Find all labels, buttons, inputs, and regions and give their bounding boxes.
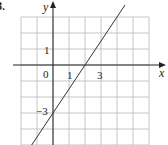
origin-label: 0 xyxy=(43,69,49,80)
y-tick-label-neg3: −3 xyxy=(36,106,48,117)
y-tick-label-1: 1 xyxy=(44,45,50,56)
x-tick-label-1: 1 xyxy=(67,70,73,81)
x-tick-label-3: 3 xyxy=(97,70,103,81)
y-axis-label: y xyxy=(43,1,48,13)
coordinate-plot xyxy=(0,0,168,145)
x-axis-label: x xyxy=(159,67,164,79)
y-axis-arrow-icon xyxy=(50,1,56,8)
